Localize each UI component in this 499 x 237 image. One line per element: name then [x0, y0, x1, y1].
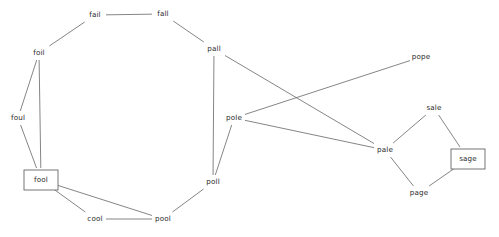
- node-label-sage[interactable]: sage: [459, 155, 477, 162]
- edge-pool-poll: [172, 189, 203, 212]
- edge-poll-pall: [213, 56, 214, 175]
- node-label-pale[interactable]: pale: [377, 146, 393, 153]
- edge-fail-fall: [106, 14, 152, 15]
- node-label-fool[interactable]: fool: [34, 176, 48, 183]
- edge-fall-pall: [173, 21, 204, 42]
- node-label-foul[interactable]: foul: [11, 114, 25, 121]
- node-label-pope[interactable]: pope: [412, 53, 431, 60]
- edge-pale-page: [391, 157, 414, 186]
- node-label-cool[interactable]: cool: [87, 215, 102, 222]
- edge-sale-sage: [439, 115, 460, 147]
- edge-foil-foul: [20, 60, 36, 111]
- edge-foil-fool: [39, 60, 41, 168]
- edge-poll-pole: [215, 125, 231, 175]
- edge-sage-page: [429, 168, 454, 186]
- edge-fail-foil: [49, 22, 84, 46]
- node-label-fall[interactable]: fall: [157, 10, 169, 17]
- node-label-pall[interactable]: pall: [207, 45, 221, 52]
- node-label-foil[interactable]: foil: [33, 49, 45, 56]
- node-label-page[interactable]: page: [410, 189, 429, 196]
- node-label-fail[interactable]: fail: [89, 11, 101, 18]
- node-label-poll[interactable]: poll: [206, 178, 220, 185]
- node-label-pool[interactable]: pool: [155, 215, 171, 222]
- edge-pall-pale: [225, 56, 374, 144]
- edge-pole-pale: [245, 120, 374, 147]
- graph-canvas: [0, 0, 499, 237]
- node-label-pole[interactable]: pole: [226, 114, 242, 121]
- edge-foul-fool: [21, 125, 37, 168]
- node-label-sale[interactable]: sale: [426, 104, 441, 111]
- node-box-layer: [24, 149, 485, 190]
- edge-pole-pope: [245, 61, 410, 115]
- edge-pale-sale: [393, 115, 426, 143]
